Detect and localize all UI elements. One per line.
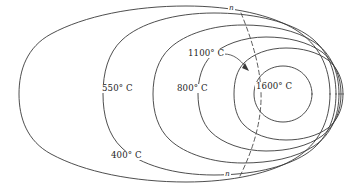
isotherm-contour-400 [19, 6, 330, 182]
isotherm-label-800: 800° C [176, 84, 209, 93]
isotherm-label-1100: 1100° C [187, 49, 225, 58]
isotherm-core-circle [254, 66, 312, 122]
isotherm-label-550: 550° C [101, 84, 134, 93]
isotherm-figure: 400° C 550° C 800° C 1100° C 1600° C n n [0, 0, 348, 189]
section-label-n-bottom: n [224, 170, 231, 177]
isotherm-label-400: 400° C [110, 151, 143, 160]
section-label-n-top: n [228, 4, 235, 11]
isotherm-contour-1600 [234, 48, 343, 140]
isotherm-label-1600: 1600° C [255, 82, 293, 91]
isotherm-diagram-svg [0, 0, 348, 189]
